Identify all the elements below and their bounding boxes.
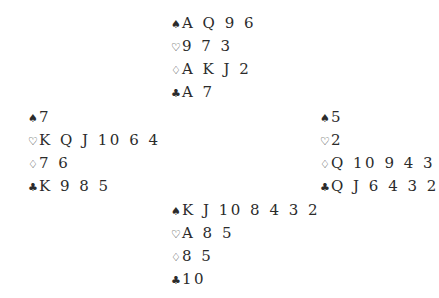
east-clubs-row: ♣Q J 6 4 3 2 <box>320 175 439 198</box>
heart-icon: ♡ <box>171 223 181 246</box>
west-spades-row: ♠7 <box>28 106 161 129</box>
north-diamonds-row: ♢A K J 2 <box>171 58 256 81</box>
diamond-icon: ♢ <box>171 246 181 269</box>
west-clubs-row: ♣K 9 8 5 <box>28 175 161 198</box>
south-diamonds-row: ♢8 5 <box>171 245 320 268</box>
south-spades-cards: K J 10 8 4 3 2 <box>182 201 320 219</box>
west-clubs-cards: K 9 8 5 <box>39 177 111 195</box>
heart-icon: ♡ <box>320 130 330 153</box>
east-spades-row: ♠5 <box>320 106 439 129</box>
west-spades-cards: 7 <box>39 108 51 126</box>
east-hearts-row: ♡2 <box>320 129 439 152</box>
north-hearts-row: ♡9 7 3 <box>171 35 256 58</box>
north-clubs-row: ♣A 7 <box>171 81 256 104</box>
east-clubs-cards: Q J 6 4 3 2 <box>331 177 439 195</box>
west-diamonds-cards: 7 6 <box>39 154 70 172</box>
north-hand: ♠A Q 9 6 ♡9 7 3 ♢A K J 2 ♣A 7 <box>171 12 256 104</box>
south-diamonds-cards: 8 5 <box>182 247 213 265</box>
club-icon: ♣ <box>28 176 38 199</box>
west-hand: ♠7 ♡K Q J 10 6 4 ♢7 6 ♣K 9 8 5 <box>28 106 161 198</box>
east-hearts-cards: 2 <box>331 131 343 149</box>
diamond-icon: ♢ <box>320 153 330 176</box>
north-spades-row: ♠A Q 9 6 <box>171 12 256 35</box>
west-diamonds-row: ♢7 6 <box>28 152 161 175</box>
east-diamonds-row: ♢Q 10 9 4 3 <box>320 152 439 175</box>
south-hand: ♠K J 10 8 4 3 2 ♡A 8 5 ♢8 5 ♣10 <box>171 199 320 291</box>
south-spades-row: ♠K J 10 8 4 3 2 <box>171 199 320 222</box>
spade-icon: ♠ <box>171 200 181 223</box>
north-diamonds-cards: A K J 2 <box>182 60 251 78</box>
spade-icon: ♠ <box>320 107 330 130</box>
diamond-icon: ♢ <box>171 59 181 82</box>
heart-icon: ♡ <box>171 36 181 59</box>
south-clubs-row: ♣10 <box>171 268 320 291</box>
club-icon: ♣ <box>320 176 330 199</box>
club-icon: ♣ <box>171 82 181 105</box>
south-clubs-cards: 10 <box>182 270 206 288</box>
spade-icon: ♠ <box>28 107 38 130</box>
west-hearts-row: ♡K Q J 10 6 4 <box>28 129 161 152</box>
north-hearts-cards: 9 7 3 <box>182 37 233 55</box>
diamond-icon: ♢ <box>28 153 38 176</box>
spade-icon: ♠ <box>171 13 181 36</box>
east-diamonds-cards: Q 10 9 4 3 <box>331 154 435 172</box>
north-spades-cards: A Q 9 6 <box>182 14 256 32</box>
club-icon: ♣ <box>171 269 181 292</box>
south-hearts-row: ♡A 8 5 <box>171 222 320 245</box>
east-hand: ♠5 ♡2 ♢Q 10 9 4 3 ♣Q J 6 4 3 2 <box>320 106 439 198</box>
south-hearts-cards: A 8 5 <box>182 224 234 242</box>
north-clubs-cards: A 7 <box>182 83 215 101</box>
heart-icon: ♡ <box>28 130 38 153</box>
east-spades-cards: 5 <box>331 108 343 126</box>
west-hearts-cards: K Q J 10 6 4 <box>39 131 161 149</box>
